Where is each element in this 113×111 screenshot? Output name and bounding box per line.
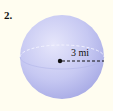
sphere-figure bbox=[0, 0, 113, 111]
center-point bbox=[58, 59, 62, 63]
sphere bbox=[20, 15, 104, 99]
radius-label: 3 mi bbox=[71, 47, 89, 58]
